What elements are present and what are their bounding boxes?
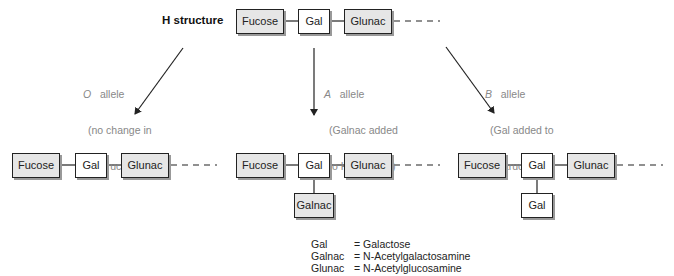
fucose-box: Fucose (12, 153, 60, 178)
glunac-box: Glunac (344, 9, 392, 34)
fucose-box: Fucose (458, 153, 506, 178)
legend: Gal= Galactose Galnac= N-Acetylgalactosa… (311, 238, 470, 274)
gal-box: Gal (521, 153, 553, 178)
h-structure-label: H structure (162, 14, 223, 26)
legend-row: Glunac= N-Acetylglucosamine (311, 262, 470, 274)
gal-box: Gal (298, 9, 330, 34)
glunac-box: Glunac (344, 153, 392, 178)
glunac-box: Glunac (567, 153, 615, 178)
fucose-box: Fucose (236, 9, 284, 34)
glunac-box: Glunac (121, 153, 169, 178)
legend-row: Gal= Galactose (311, 238, 470, 250)
fucose-box: Fucose (236, 153, 284, 178)
gal-box: Gal (298, 153, 330, 178)
gal-branch-box: Gal (521, 193, 553, 218)
galnac-branch-box: Galnac (294, 193, 334, 218)
legend-row: Galnac= N-Acetylgalactosamine (311, 250, 470, 262)
gal-box: Gal (75, 153, 107, 178)
